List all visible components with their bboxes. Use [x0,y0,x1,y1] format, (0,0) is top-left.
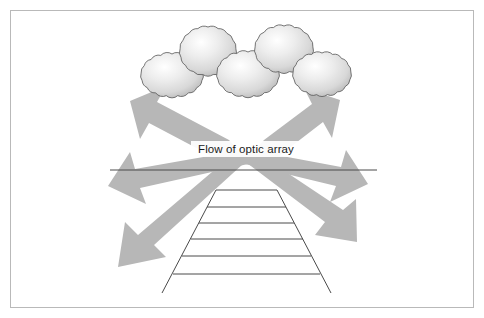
flow-label: Flow of optic array [198,143,294,155]
optic-flow-figure: Flow of optic array [0,0,484,318]
diagram-canvas: Flow of optic array [0,0,484,318]
flow-label-group: Flow of optic array [191,141,301,157]
bush-right-front [293,52,352,97]
foliage-cluster [141,25,352,98]
optic-flow-arrows [108,86,368,267]
